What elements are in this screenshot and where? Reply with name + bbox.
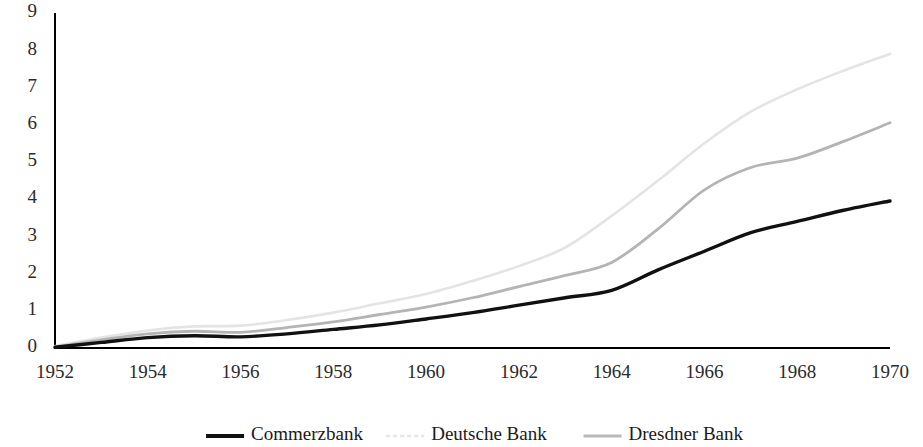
legend-label-commerzbank: Commerzbank [251, 423, 363, 444]
y-tick-label: 8 [28, 38, 38, 59]
legend-label-deutsche-bank: Deutsche Bank [431, 423, 547, 444]
chart-container: 0123456789 19521954195619581960196219641… [0, 0, 923, 447]
x-tick-label: 1966 [685, 361, 723, 382]
y-tick-label: 7 [28, 75, 38, 96]
y-tick-label: 3 [28, 224, 38, 245]
y-tick-label: 6 [28, 112, 38, 133]
x-tick-label: 1958 [314, 361, 352, 382]
x-tick-label: 1962 [500, 361, 538, 382]
series-line-deutsche-bank [55, 54, 890, 346]
series-lines [55, 54, 890, 347]
x-tick-label: 1952 [36, 361, 74, 382]
x-tick-label: 1968 [778, 361, 816, 382]
y-tick-label: 1 [28, 298, 38, 319]
chart-legend: CommerzbankDeutsche BankDresdner Bank [206, 423, 743, 444]
y-tick-label: 0 [28, 335, 38, 356]
y-axis-tick-labels: 0123456789 [28, 0, 38, 356]
line-chart: 0123456789 19521954195619581960196219641… [0, 0, 923, 447]
y-tick-label: 2 [28, 261, 38, 282]
x-axis-tick-labels: 1952195419561958196019621964196619681970 [36, 361, 909, 382]
y-tick-label: 4 [28, 186, 38, 207]
x-tick-label: 1954 [129, 361, 168, 382]
x-tick-label: 1960 [407, 361, 445, 382]
x-tick-label: 1964 [593, 361, 632, 382]
y-tick-label: 9 [28, 0, 38, 21]
x-tick-label: 1956 [222, 361, 260, 382]
x-tick-label: 1970 [871, 361, 909, 382]
legend-label-dresdner-bank: Dresdner Bank [629, 423, 744, 444]
series-line-commerzbank [55, 201, 890, 347]
y-tick-label: 5 [28, 149, 38, 170]
